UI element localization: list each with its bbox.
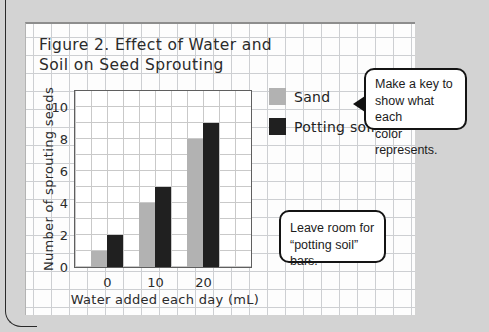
callout-line: “potting soil” bars. xyxy=(290,237,378,270)
callout-leave-room: Leave room for “potting soil” bars. xyxy=(279,210,386,263)
plot-area xyxy=(74,90,252,268)
legend-swatch-icon xyxy=(269,88,286,105)
bar-potting-soil-0 xyxy=(107,235,123,267)
callout-line: color represents. xyxy=(375,126,459,159)
figure-title: Figure 2. Effect of Water and Soil on Se… xyxy=(39,35,272,75)
legend-item: Potting soil xyxy=(269,118,375,135)
y-tick-label: 8 xyxy=(34,132,68,147)
legend-swatch-icon xyxy=(269,118,286,135)
x-tick-label: 10 xyxy=(136,275,176,290)
y-tick-label: 10 xyxy=(34,100,68,115)
x-axis-label: Water added each day (mL) xyxy=(70,292,260,307)
graph-paper: Figure 2. Effect of Water and Soil on Se… xyxy=(25,22,415,315)
x-tick-label: 20 xyxy=(184,275,224,290)
x-tick-label: 0 xyxy=(88,275,128,290)
bar-potting-soil-10 xyxy=(155,187,171,267)
legend-label: Sand xyxy=(294,89,330,105)
textbook-figure-page: Figure 2. Effect of Water and Soil on Se… xyxy=(0,0,489,332)
y-tick-label: 2 xyxy=(34,228,68,243)
callout-line: Leave room for xyxy=(290,220,378,237)
callout-arrow-left-icon xyxy=(353,96,365,112)
y-tick-label: 4 xyxy=(34,196,68,211)
bar-sand-10 xyxy=(139,203,155,267)
callout-make-a-key: Make a key to show what each color repre… xyxy=(364,68,467,130)
figure-title-line-1: Figure 2. Effect of Water and xyxy=(39,35,272,55)
bar-sand-20 xyxy=(187,139,203,267)
bar-potting-soil-20 xyxy=(203,123,219,267)
legend-label: Potting soil xyxy=(294,119,375,135)
figure-title-line-2: Soil on Seed Sprouting xyxy=(39,55,272,75)
callout-line: Make a key to xyxy=(375,76,459,93)
callout-line: show what each xyxy=(375,93,459,126)
bar-sand-0 xyxy=(91,251,107,267)
y-tick-label: 6 xyxy=(34,164,68,179)
y-tick-label: 0 xyxy=(34,260,68,275)
y-axis-label: Number of sprouting seeds xyxy=(41,87,56,271)
